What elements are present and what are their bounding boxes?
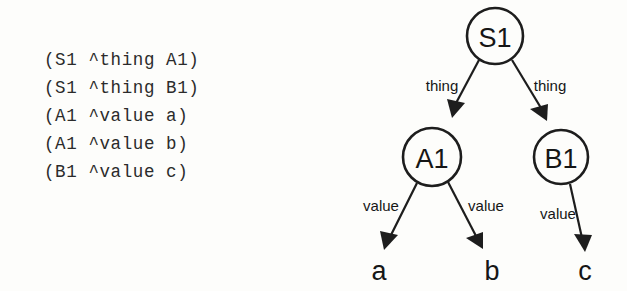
leaf-label-a: a: [371, 256, 387, 286]
node-s1: S1: [467, 8, 523, 64]
edge-a1-a: value: [363, 183, 417, 250]
edge-a1-b: value: [448, 182, 504, 249]
leaf-label-b: b: [484, 256, 499, 286]
node-b1: B1: [534, 130, 588, 184]
wm-line: (A1 ^value a): [44, 102, 274, 130]
node-label-s1: S1: [478, 23, 511, 53]
arrowhead-s1-a1: [447, 99, 465, 118]
graph-diagram: thing thing value value: [300, 0, 627, 291]
edge-label-value-c: value: [540, 205, 576, 222]
leaf-label-c: c: [578, 256, 592, 286]
edge-label-value-a: value: [363, 197, 399, 214]
node-label-b1: B1: [544, 144, 577, 174]
wm-line: (S1 ^thing B1): [44, 74, 274, 102]
edge-line-s1-a1: [455, 60, 479, 105]
wm-line: (A1 ^value b): [44, 130, 274, 158]
figure-canvas: (S1 ^thing A1) (S1 ^thing B1) (A1 ^value…: [0, 0, 627, 291]
edge-s1-a1: thing: [426, 60, 479, 118]
node-label-a1: A1: [415, 144, 448, 174]
wm-line: (B1 ^value c): [44, 158, 274, 186]
edge-label-thing-b1: thing: [534, 77, 567, 94]
edge-label-value-b: value: [468, 197, 504, 214]
edge-b1-c: value: [540, 184, 592, 252]
arrowhead-b1-c: [574, 234, 592, 252]
arrowhead-s1-b1: [530, 104, 548, 121]
wm-line: (S1 ^thing A1): [44, 46, 274, 74]
edge-label-thing-a1: thing: [426, 77, 459, 94]
edge-s1-b1: thing: [512, 60, 566, 121]
arrowhead-a1-a: [380, 231, 398, 250]
working-memory-listing: (S1 ^thing A1) (S1 ^thing B1) (A1 ^value…: [44, 46, 274, 186]
node-a1: A1: [403, 128, 461, 186]
